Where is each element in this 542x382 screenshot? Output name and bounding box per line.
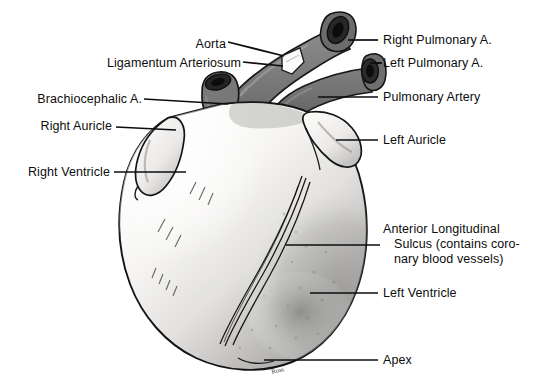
label-right-pulmonary-artery: Right Pulmonary A. xyxy=(383,33,492,48)
label-brachiocephalic-artery: Brachiocephalic A. xyxy=(2,92,142,107)
label-layer: Aorta Ligamentum Arteriosum Brachiocepha… xyxy=(0,0,542,382)
label-aorta: Aorta xyxy=(2,37,226,52)
label-left-auricle: Left Auricle xyxy=(383,133,446,148)
sulcus-line-2: Sulcus (contains coro- xyxy=(383,237,533,252)
label-right-ventricle: Right Ventricle xyxy=(2,165,110,180)
label-left-pulmonary-artery: Left Pulmonary A. xyxy=(383,56,483,71)
label-left-ventricle: Left Ventricle xyxy=(383,286,457,301)
label-ligamentum-arteriosum: Ligamentum Arteriosum xyxy=(2,56,241,71)
heart-anatomy-figure: Ross Aorta Ligamentum Arteriosum Brachio… xyxy=(0,0,542,382)
label-pulmonary-artery: Pulmonary Artery xyxy=(383,90,480,105)
sulcus-line-3: nary blood vessels) xyxy=(383,252,533,267)
label-apex: Apex xyxy=(383,353,412,368)
label-right-auricle: Right Auricle xyxy=(2,119,112,134)
label-anterior-longitudinal-sulcus: Anterior Longitudinal Sulcus (contains c… xyxy=(383,222,533,267)
sulcus-line-1: Anterior Longitudinal xyxy=(383,222,500,236)
